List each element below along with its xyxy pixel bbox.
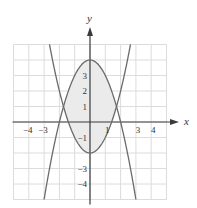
y-tick-label: 3: [83, 71, 88, 81]
x-tick-label: −4: [23, 125, 33, 135]
y-tick-label: −1: [77, 133, 87, 143]
x-tick-label: −3: [38, 125, 48, 135]
y-tick-label: 2: [83, 86, 88, 96]
graph: −4−3134321−1−3−4 x y: [0, 0, 197, 208]
y-axis-arrow-icon: [87, 27, 93, 36]
x-tick-label: 4: [151, 125, 156, 135]
y-tick-label: −3: [77, 164, 87, 174]
y-tick-label: −4: [77, 179, 87, 189]
x-tick-label: 3: [136, 125, 141, 135]
x-axis-label: x: [183, 115, 189, 127]
x-axis-arrow-icon: [170, 119, 179, 125]
y-axis-label: y: [86, 12, 92, 24]
x-tick-label: 1: [105, 125, 110, 135]
y-tick-label: 1: [83, 102, 88, 112]
